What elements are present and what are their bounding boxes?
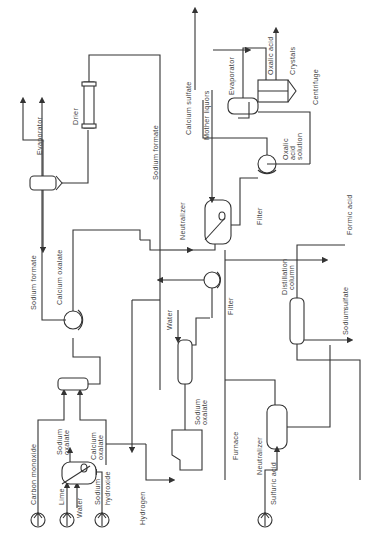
furnace (172, 430, 202, 470)
label-mother-liquors: Mother liquors (202, 90, 211, 140)
label-filter-1: Filter (255, 207, 264, 225)
label-centrifuge: Centrifuge (311, 69, 320, 105)
drier-top-line (89, 55, 160, 82)
furnace-feed (146, 444, 172, 480)
label-sodium-sulfate-b: sulfate (341, 287, 350, 310)
label-filter-2: Filter (226, 297, 235, 315)
label-sodium-oxalate-furnace-b: oxalate (200, 400, 209, 425)
evaporator-vessel (30, 176, 62, 190)
label-water-2: Water (165, 309, 174, 330)
label-water: Water (75, 497, 84, 518)
label-hydroxide: hydroxide (103, 471, 112, 505)
label-carbon-monoxide: Carbon monoxide (29, 444, 38, 505)
dist-top (297, 245, 345, 298)
feed-neutralizer (190, 244, 215, 250)
neut2-to-column (287, 345, 330, 427)
centrifuge (258, 80, 296, 102)
drier-tube (82, 82, 96, 128)
ca-ox-join (140, 240, 160, 250)
to-filter-2 (231, 178, 258, 225)
settler-drum (58, 378, 88, 390)
label-formic-acid: Formic acid (345, 195, 354, 235)
to-neutralizer-2 (225, 380, 275, 405)
calcium-oxalate-to-neutralizer (73, 230, 140, 311)
neutralizer-1 (205, 200, 231, 244)
hydrolyzer-drum (178, 340, 192, 384)
label-sodium: Sodium (93, 479, 102, 505)
rotary-filter-3 (204, 272, 220, 288)
label-neutralizer-1: Neutralizer (178, 202, 187, 240)
label-oxalic-acid-out: Oxalic acid (266, 37, 275, 75)
label-hydrogen: Hydrogen (138, 491, 147, 525)
label-furnace: Furnace (231, 432, 240, 460)
label-neutralizer-2: Neutralizer (255, 437, 264, 475)
to-drier-line (62, 130, 88, 183)
neutralizer-2 (267, 405, 287, 449)
evaporator-2 (228, 98, 258, 114)
pump-icon-sodium-hydroxide (95, 513, 109, 527)
label-lime: Lime (57, 488, 66, 505)
label-evaporator-out: Evaporator (35, 117, 44, 155)
pump-icon-sulfuric-acid (258, 513, 272, 527)
label-sodium-formate-2: Sodium formate (151, 125, 160, 180)
label-crystals: Crystals (288, 47, 297, 75)
label-drier: Drier (71, 108, 80, 125)
label-evaporator: Evaporator (227, 57, 236, 95)
label-calcium-oxalate-1: Calcium oxalate (55, 249, 64, 305)
label-sodium-oxalate-b: oxalate (62, 430, 71, 455)
label-sulfuric-acid: Sulfuric acid (269, 462, 278, 505)
label-sodium-formate-1: Sodium formate (29, 255, 38, 310)
reactor-vessel (62, 462, 96, 484)
dist-bottom (297, 344, 360, 480)
label-oxalic-solution-c: solution (295, 133, 304, 160)
drum-to-filter-line (73, 338, 100, 384)
drum-to-filter3 (192, 318, 210, 345)
rotary-filter-1 (64, 310, 83, 330)
pump-icon-carbon-monoxide (31, 513, 45, 527)
label-calcium-oxalate-b: oxalate (96, 435, 105, 460)
process-flow-diagram: Carbon monoxide Lime Water Sodium hydrox… (0, 0, 387, 557)
distillation-column (290, 298, 304, 344)
pump-icon-lime (60, 513, 74, 527)
label-sodium-sulfate-a: Sodium (341, 309, 350, 335)
label-calcium-sulfate: Calcium sulfate (184, 81, 193, 135)
label-distillation-b: column (287, 265, 296, 290)
